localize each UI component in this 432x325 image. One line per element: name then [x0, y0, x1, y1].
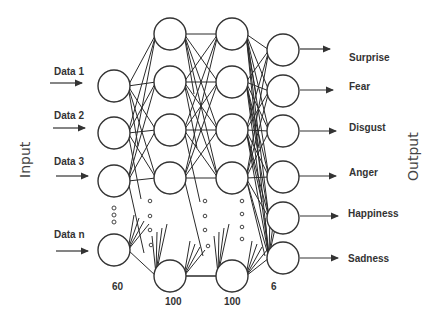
input-label-n: Data n	[54, 229, 85, 240]
input-node-3	[98, 165, 130, 197]
output-label-fear: Fear	[349, 81, 370, 92]
input-label-2: Data 2	[54, 110, 84, 121]
connection-edges	[128, 34, 280, 276]
input-label-3: Data 3	[54, 156, 84, 167]
connection-edge	[128, 34, 156, 86]
output-node-6	[267, 242, 299, 274]
connection-edge	[184, 178, 203, 256]
layer-count-hidden1: 100	[165, 296, 182, 307]
connection-edge	[246, 250, 267, 276]
connection-edge	[246, 130, 269, 131]
input-node-2	[98, 117, 130, 149]
input-data-group: Data 1 Data 2 Data 3 Data n	[50, 66, 88, 251]
input-side-label: Input	[17, 141, 33, 178]
hidden2-node-3	[216, 114, 248, 146]
layer-count-output: 6	[271, 281, 277, 292]
hidden2-node-1	[216, 18, 248, 50]
connection-edge	[128, 178, 156, 181]
output-label-anger: Anger	[349, 167, 378, 178]
connection-edge	[184, 250, 205, 276]
hidden1-node-1	[154, 18, 186, 50]
hidden2-node-2	[216, 66, 248, 98]
connection-edge	[246, 177, 269, 178]
hidden2-node-4	[216, 162, 248, 194]
neural-network-diagram: Input Output Data 1 Data 2 Data 3 Data n…	[0, 0, 432, 325]
output-node-4	[267, 161, 299, 193]
hidden1-node-4	[154, 162, 186, 194]
layer-count-input: 60	[112, 281, 124, 292]
connection-edge	[128, 250, 156, 276]
hidden1-node-3	[154, 114, 186, 146]
hidden1-node-5	[154, 260, 186, 292]
output-label-happiness: Happiness	[348, 208, 399, 219]
output-label-surprise: Surprise	[349, 52, 390, 63]
output-node-2	[267, 75, 299, 107]
hidden2-node-5	[216, 260, 248, 292]
layer-count-hidden2: 100	[224, 296, 241, 307]
input-node-4	[98, 234, 130, 266]
connection-edge	[128, 82, 156, 181]
connection-edge	[128, 34, 156, 133]
output-group: Surprise Fear Disgust Anger Happiness Sa…	[296, 49, 399, 264]
output-node-3	[267, 115, 299, 147]
network-nodes	[98, 18, 299, 292]
output-side-label: Output	[405, 132, 421, 181]
input-node-1	[98, 70, 130, 102]
hidden1-node-2	[154, 66, 186, 98]
output-node-1	[267, 34, 299, 66]
output-label-disgust: Disgust	[349, 122, 386, 133]
connection-edge	[128, 34, 156, 181]
output-node-5	[267, 202, 299, 234]
output-label-sadness: Sadness	[348, 253, 390, 264]
input-label-1: Data 1	[54, 66, 84, 77]
